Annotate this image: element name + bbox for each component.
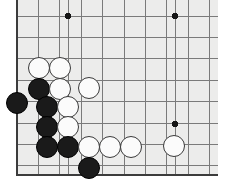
go-board[interactable] bbox=[0, 0, 229, 186]
board-playing-surface[interactable] bbox=[17, 0, 218, 176]
